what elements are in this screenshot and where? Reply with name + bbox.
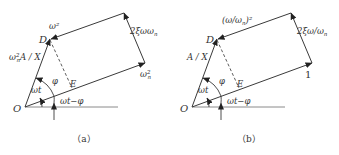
vector-damping-b bbox=[291, 13, 312, 63]
label-right-edge-b: 2ξω/ωn bbox=[296, 26, 328, 37]
label-angle-phi-a: φ bbox=[52, 76, 58, 86]
label-angle-wt-b: ωt bbox=[198, 85, 209, 95]
label-origin-b: O bbox=[180, 103, 188, 114]
vector-damping-a bbox=[124, 13, 145, 63]
label-point-d-a: D bbox=[38, 34, 47, 45]
caption-a: （a） bbox=[72, 134, 95, 144]
label-angle-phi-b: φ bbox=[219, 76, 225, 86]
label-bottom-right-a: ω2n bbox=[140, 69, 151, 80]
caption-b: （b） bbox=[237, 134, 261, 144]
label-right-edge-a: 2ξωωn bbox=[129, 26, 158, 37]
label-bottom-right-b: 1 bbox=[305, 69, 311, 80]
vector-inertia-a bbox=[51, 13, 124, 39]
panel-b: O D E (ω/ωn)² 2ξω/ωn 1 A / X ωt φ ωt−φ （… bbox=[180, 13, 328, 144]
panel-a: O D E ω² 2ξωωn ω2n ω2nA / X ωt φ ωt−φ （a… bbox=[9, 13, 158, 144]
arc-wt-minus-phi-b bbox=[207, 98, 209, 107]
vector-od-b bbox=[192, 39, 217, 107]
label-point-e-a: E bbox=[69, 79, 77, 89]
label-point-d-b: D bbox=[205, 34, 214, 45]
vector-od-a bbox=[25, 39, 50, 107]
label-angle-wt-minus-phi-a: ωt−φ bbox=[60, 96, 83, 106]
arc-wt-minus-phi-a bbox=[40, 98, 42, 107]
label-top-edge-a: ω² bbox=[49, 21, 60, 31]
label-point-e-b: E bbox=[236, 79, 244, 89]
label-angle-wt-a: ωt bbox=[31, 85, 42, 95]
vector-stiffness-a bbox=[25, 63, 145, 107]
vector-stiffness-b bbox=[192, 63, 312, 107]
label-angle-wt-minus-phi-b: ωt−φ bbox=[227, 96, 250, 106]
label-left-edge-a: ω2nA / X bbox=[9, 52, 41, 63]
vector-diagram-figure: O D E ω² 2ξωωn ω2n ω2nA / X ωt φ ωt−φ （a… bbox=[0, 0, 339, 155]
label-top-edge-b: (ω/ωn)² bbox=[222, 15, 253, 26]
label-left-edge-b: A / X bbox=[186, 52, 208, 62]
label-origin-a: O bbox=[13, 103, 21, 114]
